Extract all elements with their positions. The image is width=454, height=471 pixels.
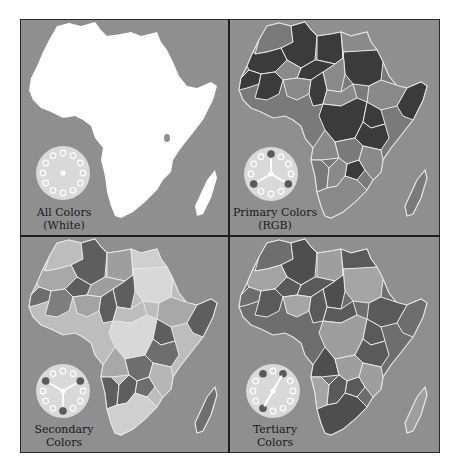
wheel-dot (260, 371, 266, 377)
caption-line1: All Colors (21, 206, 119, 219)
caption-tertiary-colors: Tertiary Colors (230, 423, 330, 449)
lake-victoria (164, 134, 170, 142)
country-region (101, 377, 119, 409)
country-region (317, 32, 343, 64)
color-wheel-icon (35, 145, 91, 201)
panel-all-colors: All Colors (White) (21, 20, 228, 235)
wheel-center (60, 388, 65, 393)
africa-map-tertiary (230, 237, 439, 452)
caption-line1: Primary Colors (230, 206, 330, 219)
wheel-center (60, 170, 65, 175)
country-region (341, 32, 377, 52)
wheel-dot (43, 378, 49, 384)
panel-secondary-colors: Secondary Colors (21, 237, 228, 452)
caption-all-colors: All Colors (White) (21, 206, 119, 232)
color-wheel-icon (245, 363, 301, 419)
madagascar-region (405, 387, 427, 433)
wheel-dot (285, 181, 291, 187)
panel-tertiary-colors: Tertiary Colors (230, 237, 439, 452)
color-wheel-icon (243, 146, 299, 202)
caption-line2: (RGB) (230, 219, 330, 232)
caption-line2: Colors (21, 436, 119, 449)
caption-line1: Secondary (21, 423, 119, 436)
caption-line2: (White) (21, 219, 119, 232)
country-region (107, 249, 133, 281)
horizontal-divider (20, 235, 440, 237)
wheel-dot (268, 151, 274, 157)
madagascar-region (195, 387, 217, 433)
country-region (311, 377, 329, 409)
africa-map-white (21, 20, 228, 235)
wheel-dot (77, 378, 83, 384)
africa-map-primary (230, 20, 439, 235)
madagascar-region (405, 170, 427, 216)
wheel-dot (60, 408, 66, 414)
country-region (311, 160, 329, 192)
caption-secondary-colors: Secondary Colors (21, 423, 119, 449)
country-region (341, 249, 377, 269)
caption-line1: Tertiary (230, 423, 330, 436)
color-wheel-icon (35, 363, 91, 419)
africa-map-secondary (21, 237, 228, 452)
madagascar-landmass (195, 170, 217, 216)
country-region (317, 249, 343, 281)
wheel-center (270, 388, 275, 393)
wheel-dot (251, 181, 257, 187)
caption-primary-colors: Primary Colors (RGB) (230, 206, 330, 232)
country-region (131, 249, 167, 269)
panel-primary-colors: Primary Colors (RGB) (230, 20, 439, 235)
caption-line2: Colors (230, 436, 330, 449)
wheel-center (268, 171, 273, 176)
